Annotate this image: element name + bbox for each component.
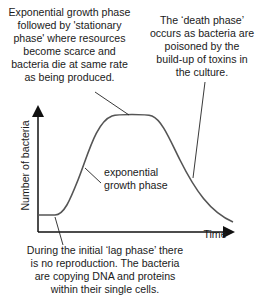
y-axis-label: Number of bacteria (19, 116, 32, 216)
x-axis-label: Time (195, 228, 235, 241)
death-phase-annotation: The ‘death phase’ occurs as bacteria are… (148, 14, 256, 79)
exponential-phase-annotation: exponential growth phase (104, 166, 184, 192)
stationary-phase-annotation: Exponential growth phase followed by 'st… (2, 6, 137, 84)
stationary-pointer (95, 92, 129, 115)
lag-pointer (55, 217, 63, 245)
exponential-pointer (85, 168, 101, 183)
lag-phase-annotation: During the initial ‘lag phase’ there is … (15, 244, 195, 296)
death-pointer (193, 82, 205, 178)
